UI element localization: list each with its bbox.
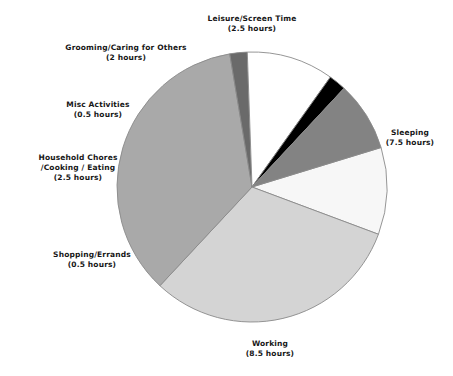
slice-label-leisure-value: (2.5 hours) — [186, 24, 318, 34]
slice-label-leisure: Leisure/Screen Time (2.5 hours) — [186, 14, 318, 34]
pie-slice-group — [117, 52, 387, 322]
slice-label-shopping-name: Shopping/Errands — [22, 250, 162, 260]
slice-label-working-value: (8.5 hours) — [214, 349, 326, 359]
slice-label-grooming-value: (2 hours) — [44, 53, 208, 63]
slice-label-shopping-value: (0.5 hours) — [22, 260, 162, 270]
slice-label-misc-name: Misc Activities — [34, 100, 162, 110]
slice-label-household: Household Chores /Cooking / Eating (2.5 … — [10, 153, 146, 183]
slice-label-misc-value: (0.5 hours) — [34, 110, 162, 120]
slice-label-grooming: Grooming/Caring for Others (2 hours) — [44, 43, 208, 63]
slice-label-shopping: Shopping/Errands (0.5 hours) — [22, 250, 162, 270]
slice-label-household-name-line2: /Cooking / Eating — [10, 163, 146, 173]
slice-label-sleeping-value: (7.5 hours) — [372, 138, 448, 148]
pie-chart: Leisure/Screen Time (2.5 hours) Grooming… — [0, 0, 453, 376]
slice-label-sleeping-name: Sleeping — [372, 128, 448, 138]
slice-label-household-value: (2.5 hours) — [10, 173, 146, 183]
slice-label-household-name: Household Chores — [10, 153, 146, 163]
slice-label-sleeping: Sleeping (7.5 hours) — [372, 128, 448, 148]
slice-label-working: Working (8.5 hours) — [214, 339, 326, 359]
slice-label-working-name: Working — [214, 339, 326, 349]
slice-label-misc: Misc Activities (0.5 hours) — [34, 100, 162, 120]
slice-label-grooming-name: Grooming/Caring for Others — [44, 43, 208, 53]
slice-label-leisure-name: Leisure/Screen Time — [186, 14, 318, 24]
